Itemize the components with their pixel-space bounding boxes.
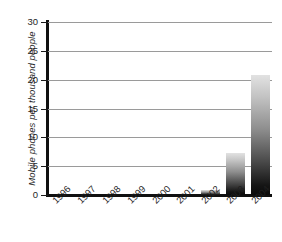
- y-axis-tick-label: 0: [12, 189, 38, 200]
- y-axis-tick: [41, 80, 48, 81]
- bar-chart: Mobile phones per thousand people 051015…: [0, 0, 282, 242]
- y-axis-tick-label: 10: [12, 131, 38, 142]
- gridline: [48, 109, 272, 110]
- y-axis-tick: [41, 137, 48, 138]
- y-axis-tick-label: 20: [12, 74, 38, 85]
- gridline: [48, 80, 272, 81]
- y-axis-tick-label: 15: [12, 103, 38, 114]
- y-axis-tick: [41, 166, 48, 167]
- y-axis-tick-label: 25: [12, 45, 38, 56]
- gridline: [48, 22, 272, 23]
- y-axis-tick-label: 30: [12, 16, 38, 27]
- y-axis-tick: [41, 109, 48, 110]
- y-axis-tick: [41, 195, 48, 196]
- x-axis-tick-labels: 199619971998199920002001200220032004: [48, 198, 272, 242]
- y-axis-tick: [41, 51, 48, 52]
- gridline: [48, 137, 272, 138]
- plot-area: [48, 22, 272, 195]
- y-axis-tick: [41, 22, 48, 23]
- y-axis-tick-label: 5: [12, 160, 38, 171]
- gridline: [48, 51, 272, 52]
